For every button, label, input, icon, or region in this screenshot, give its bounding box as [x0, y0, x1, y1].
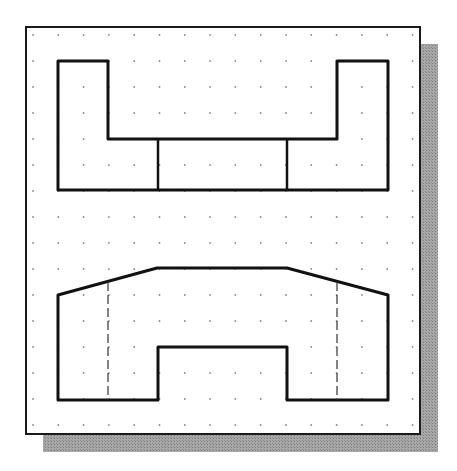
grid-dot: [159, 112, 161, 114]
grid-dot: [386, 424, 388, 426]
grid-dot: [32, 60, 34, 62]
grid-dot: [412, 86, 414, 88]
grid-dot: [133, 372, 135, 374]
grid-dot: [32, 398, 34, 400]
grid-dot: [412, 242, 414, 244]
grid-dot: [209, 294, 211, 296]
grid-dot: [260, 372, 262, 374]
grid-dot: [412, 138, 414, 140]
grid-dot: [159, 86, 161, 88]
grid-dot: [361, 268, 363, 270]
shadow-bottom: [43, 435, 438, 452]
grid-dot: [108, 424, 110, 426]
grid-dot: [83, 294, 85, 296]
grid-dot: [412, 112, 414, 114]
grid-dot: [260, 112, 262, 114]
grid-dot: [285, 86, 287, 88]
grid-dot: [184, 164, 186, 166]
grid-dot: [209, 398, 211, 400]
grid-dot: [32, 320, 34, 322]
grid-dot: [159, 294, 161, 296]
grid-dot: [412, 216, 414, 218]
grid-dot: [83, 138, 85, 140]
grid-dot: [184, 320, 186, 322]
grid-dot: [310, 216, 312, 218]
grid-dot: [133, 164, 135, 166]
grid-dot: [260, 86, 262, 88]
grid-dot: [83, 346, 85, 348]
grid-dot: [133, 60, 135, 62]
grid-dot: [159, 216, 161, 218]
grid-dot: [235, 424, 237, 426]
grid-dot: [361, 294, 363, 296]
grid-dot: [133, 34, 135, 36]
grid-dot: [32, 190, 34, 192]
grid-dot: [386, 216, 388, 218]
grid-dot: [83, 34, 85, 36]
grid-dot: [361, 372, 363, 374]
grid-dot: [310, 60, 312, 62]
grid-dot: [235, 320, 237, 322]
grid-dot: [235, 372, 237, 374]
grid-dot: [361, 34, 363, 36]
grid-dot: [209, 424, 211, 426]
grid-dot: [133, 112, 135, 114]
grid-dot: [184, 242, 186, 244]
grid-dot: [184, 216, 186, 218]
grid-dot: [310, 242, 312, 244]
grid-dot: [285, 424, 287, 426]
grid-dot: [133, 242, 135, 244]
grid-dot: [209, 86, 211, 88]
grid-dot: [310, 268, 312, 270]
grid-dot: [260, 398, 262, 400]
grid-dot: [32, 34, 34, 36]
grid-dot: [184, 60, 186, 62]
grid-dot: [260, 60, 262, 62]
grid-dot: [32, 138, 34, 140]
grid-dot: [209, 164, 211, 166]
grid-dot: [108, 216, 110, 218]
grid-dot: [32, 268, 34, 270]
grid-dot: [310, 112, 312, 114]
grid-dot: [285, 294, 287, 296]
grid-dot: [57, 242, 59, 244]
grid-dot: [260, 320, 262, 322]
grid-dot: [285, 320, 287, 322]
grid-dot: [412, 320, 414, 322]
grid-dot: [336, 268, 338, 270]
grid-dot: [133, 268, 135, 270]
grid-dot: [412, 164, 414, 166]
grid-dot: [57, 34, 59, 36]
grid-dot: [32, 164, 34, 166]
grid-dot: [83, 320, 85, 322]
grid-dot: [83, 424, 85, 426]
grid-dot: [361, 164, 363, 166]
grid-dot: [57, 268, 59, 270]
grid-dot: [32, 216, 34, 218]
grid-dot: [159, 320, 161, 322]
grid-dot: [361, 138, 363, 140]
grid-dot: [285, 242, 287, 244]
grid-dot: [235, 34, 237, 36]
grid-dot: [209, 372, 211, 374]
grid-dot: [32, 372, 34, 374]
grid-dot: [260, 216, 262, 218]
grid-dot: [133, 424, 135, 426]
grid-dot: [235, 86, 237, 88]
grid-dot: [184, 398, 186, 400]
grid-dot: [133, 320, 135, 322]
grid-dot: [235, 60, 237, 62]
grid-dot: [386, 242, 388, 244]
grid-dot: [412, 346, 414, 348]
grid-dot: [32, 86, 34, 88]
grid-dot: [133, 216, 135, 218]
grid-dot: [32, 112, 34, 114]
grid-dot: [310, 346, 312, 348]
grid-dot: [336, 242, 338, 244]
grid-dot: [285, 112, 287, 114]
grid-dot: [386, 34, 388, 36]
grid-dot: [184, 34, 186, 36]
grid-dot: [260, 424, 262, 426]
grid-dot: [32, 242, 34, 244]
grid-dot: [108, 268, 110, 270]
